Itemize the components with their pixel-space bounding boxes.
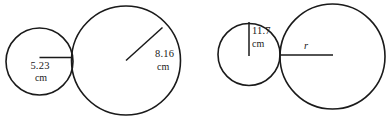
- geometry-figure: 5.23 cm 8.16 cm 11.7 cm r: [0, 0, 387, 123]
- left-large-radius-value: 8.16: [155, 48, 174, 59]
- left-small-radius-unit: cm: [35, 72, 47, 83]
- right-large-circle: [280, 4, 385, 109]
- right-large-radius-value: r: [304, 40, 309, 51]
- left-large-radius-unit: cm: [157, 61, 169, 72]
- right-small-radius-unit: cm: [252, 38, 264, 49]
- left-small-radius-value: 5.23: [30, 60, 49, 71]
- figure-panel: 5.23 cm 8.16 cm 11.7 cm r: [0, 0, 387, 123]
- left-diagram: 5.23 cm 8.16 cm: [6, 6, 181, 115]
- right-diagram: 11.7 cm r: [218, 4, 385, 109]
- right-small-radius-value: 11.7: [252, 25, 271, 36]
